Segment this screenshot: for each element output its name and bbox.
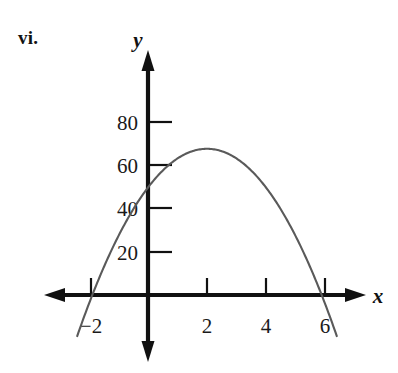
y-tick-label-80: 80: [117, 111, 138, 135]
x-tick-label-2: 2: [202, 314, 213, 338]
x-tick-labels: −2 2 4 6: [80, 314, 330, 338]
parabola-plot: y x 80 60 40 20: [0, 0, 398, 373]
arrow-right-icon: [345, 288, 366, 302]
y-tick-label-20: 20: [117, 241, 138, 265]
arrow-down-icon: [142, 341, 155, 362]
figure-container: vi. y x 80 60 40 20: [0, 0, 398, 373]
y-tick-labels: 80 60 40 20: [117, 111, 138, 265]
arrow-up-icon: [142, 50, 155, 71]
arrow-left-icon: [44, 288, 65, 302]
x-tick-marks: [91, 278, 325, 293]
y-tick-label-60: 60: [117, 154, 138, 178]
x-axis-label: x: [372, 284, 384, 308]
x-tick-label-4: 4: [261, 314, 272, 338]
y-tick-marks: [150, 122, 172, 252]
x-tick-label-6: 6: [320, 314, 331, 338]
y-axis-label: y: [130, 28, 143, 52]
